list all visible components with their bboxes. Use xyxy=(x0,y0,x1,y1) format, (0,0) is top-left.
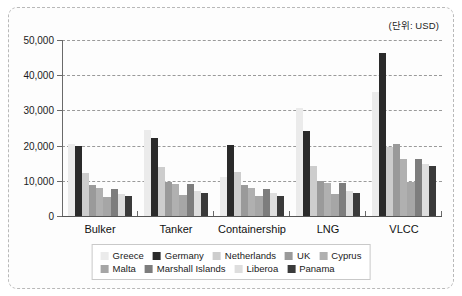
bar-greece[interactable] xyxy=(296,108,303,216)
bar-groups: BulkerTankerContainershipLNGVLCC xyxy=(62,40,442,216)
legend-item-cyprus[interactable]: Cyprus xyxy=(319,250,361,261)
legend-swatch-icon xyxy=(101,252,109,260)
bar-germany[interactable] xyxy=(303,131,310,216)
bars xyxy=(372,40,436,216)
unit-caption: (단위: USD) xyxy=(388,18,439,32)
bar-uk[interactable] xyxy=(317,181,324,216)
legend-row-2: MaltaMarshall IslandsLiberoaPanama xyxy=(101,262,362,275)
bar-uk[interactable] xyxy=(241,185,248,216)
legend-swatch-icon xyxy=(153,252,161,260)
bar-cyprus[interactable] xyxy=(248,188,255,217)
y-axis-label: 30,000 xyxy=(23,105,54,116)
legend-swatch-icon xyxy=(213,252,221,260)
y-axis-label: 0 xyxy=(48,211,54,222)
legend-swatch-icon xyxy=(145,265,153,273)
bar-malta[interactable] xyxy=(331,194,338,216)
legend-swatch-icon xyxy=(234,265,242,273)
x-axis-label-tanker: Tanker xyxy=(159,223,192,235)
bar-liberoa[interactable] xyxy=(422,164,429,216)
legend-item-liberoa[interactable]: Liberoa xyxy=(234,263,278,274)
y-axis-label: 50,000 xyxy=(23,35,54,46)
bar-greece[interactable] xyxy=(68,144,75,216)
legend-item-netherlands[interactable]: Netherlands xyxy=(213,250,276,261)
bar-malta[interactable] xyxy=(407,182,414,216)
legend-swatch-icon xyxy=(285,252,293,260)
bar-marshall-islands[interactable] xyxy=(263,189,270,216)
x-axis-label-lng: LNG xyxy=(317,223,340,235)
bar-uk[interactable] xyxy=(89,185,96,216)
bars xyxy=(220,40,284,216)
legend-label: Greece xyxy=(113,250,144,261)
bar-malta[interactable] xyxy=(103,197,110,216)
bar-greece[interactable] xyxy=(372,92,379,216)
bars xyxy=(144,40,208,216)
bar-liberoa[interactable] xyxy=(346,191,353,216)
legend-row-1: GreeceGermanyNetherlandsUKCyprus xyxy=(101,249,362,262)
bar-malta[interactable] xyxy=(179,195,186,216)
bar-germany[interactable] xyxy=(151,138,158,216)
bar-netherlands[interactable] xyxy=(234,172,241,216)
legend-label: Panama xyxy=(299,263,334,274)
bar-liberoa[interactable] xyxy=(194,191,201,216)
legend-label: Cyprus xyxy=(331,250,361,261)
bar-cyprus[interactable] xyxy=(400,159,407,216)
bar-netherlands[interactable] xyxy=(310,166,317,216)
y-axis-label: 40,000 xyxy=(23,70,54,81)
bar-group-lng: LNG xyxy=(290,40,366,216)
bars xyxy=(296,40,360,216)
legend-label: Malta xyxy=(113,263,136,274)
legend-item-malta[interactable]: Malta xyxy=(101,263,136,274)
bar-greece[interactable] xyxy=(220,177,227,216)
legend-item-greece[interactable]: Greece xyxy=(101,250,144,261)
bar-cyprus[interactable] xyxy=(96,188,103,216)
bar-panama[interactable] xyxy=(201,193,208,216)
bar-greece[interactable] xyxy=(144,130,151,216)
legend-item-panama[interactable]: Panama xyxy=(287,263,334,274)
bar-malta[interactable] xyxy=(255,196,262,216)
bar-panama[interactable] xyxy=(353,193,360,216)
bar-panama[interactable] xyxy=(429,166,436,216)
bar-netherlands[interactable] xyxy=(386,147,393,216)
legend-label: Netherlands xyxy=(225,250,276,261)
bar-marshall-islands[interactable] xyxy=(111,189,118,216)
bar-liberoa[interactable] xyxy=(118,194,125,216)
bar-germany[interactable] xyxy=(75,146,82,216)
bar-germany[interactable] xyxy=(379,53,386,216)
x-axis-label-vlcc: VLCC xyxy=(389,223,418,235)
x-axis-label-containership: Containership xyxy=(218,223,286,235)
x-axis-label-bulker: Bulker xyxy=(84,223,115,235)
plot-area: 010,00020,00030,00040,00050,000 BulkerTa… xyxy=(62,40,442,216)
bar-marshall-islands[interactable] xyxy=(339,183,346,216)
bar-netherlands[interactable] xyxy=(158,167,165,216)
legend-label: Germany xyxy=(165,250,204,261)
legend-item-uk[interactable]: UK xyxy=(285,250,310,261)
bar-cyprus[interactable] xyxy=(172,184,179,216)
bar-marshall-islands[interactable] xyxy=(415,159,422,216)
bar-cyprus[interactable] xyxy=(324,183,331,216)
bar-germany[interactable] xyxy=(227,145,234,216)
bar-group-containership: Containership xyxy=(214,40,290,216)
bar-group-bulker: Bulker xyxy=(62,40,138,216)
legend-swatch-icon xyxy=(319,252,327,260)
legend-swatch-icon xyxy=(101,265,109,273)
bar-netherlands[interactable] xyxy=(82,173,89,216)
bar-marshall-islands[interactable] xyxy=(187,184,194,216)
bar-panama[interactable] xyxy=(277,196,284,216)
bar-liberoa[interactable] xyxy=(270,193,277,216)
bar-uk[interactable] xyxy=(165,182,172,216)
y-axis-label: 20,000 xyxy=(23,140,54,151)
bar-group-vlcc: VLCC xyxy=(366,40,442,216)
bar-panama[interactable] xyxy=(125,196,132,216)
chart-figure: (단위: USD) 010,00020,00030,00040,00050,00… xyxy=(8,7,454,289)
legend-item-marshall-islands[interactable]: Marshall Islands xyxy=(145,263,226,274)
legend-label: UK xyxy=(297,250,310,261)
legend-label: Marshall Islands xyxy=(157,263,226,274)
legend-swatch-icon xyxy=(287,265,295,273)
bar-uk[interactable] xyxy=(393,144,400,216)
chart-legend: GreeceGermanyNetherlandsUKCyprusMaltaMar… xyxy=(92,244,371,280)
legend-item-germany[interactable]: Germany xyxy=(153,250,204,261)
y-axis-label: 10,000 xyxy=(23,175,54,186)
bar-group-tanker: Tanker xyxy=(138,40,214,216)
x-axis-tick xyxy=(441,211,442,216)
legend-label: Liberoa xyxy=(246,263,278,274)
